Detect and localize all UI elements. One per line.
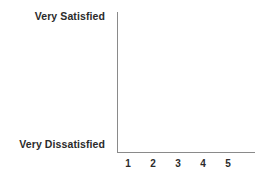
y-axis-bottom-label: Very Dissatisfied <box>19 138 105 150</box>
x-tick-label-2: 2 <box>146 158 160 170</box>
plot-area <box>118 12 255 152</box>
x-tick-label-3: 3 <box>171 158 185 170</box>
x-tick-label-4: 4 <box>196 158 210 170</box>
x-axis-line <box>117 152 255 153</box>
x-tick-label-1: 1 <box>121 158 135 170</box>
x-tick-label-5: 5 <box>221 158 235 170</box>
chart-container: Very Satisfied Very Dissatisfied 1 2 3 4… <box>0 0 264 179</box>
y-axis-top-label: Very Satisfied <box>35 10 105 22</box>
